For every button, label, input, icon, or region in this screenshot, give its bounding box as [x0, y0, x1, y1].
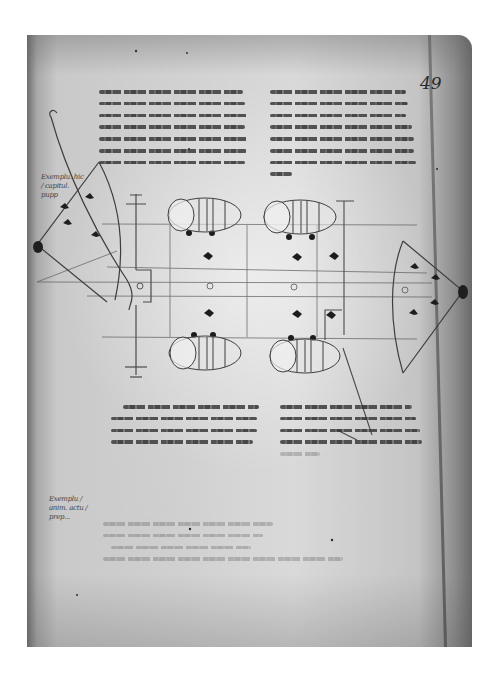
manuscript-page: 49 Exemplu. hic / capitul. pupp	[27, 35, 472, 647]
parchment-specks	[27, 35, 472, 647]
